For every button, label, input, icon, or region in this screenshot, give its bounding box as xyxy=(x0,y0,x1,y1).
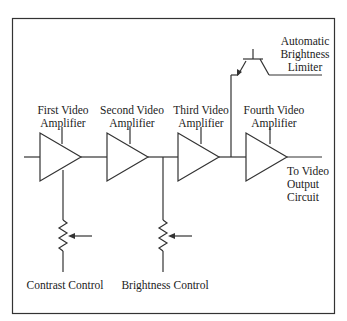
fourth-video-amplifier-symbol xyxy=(246,127,287,181)
amp4-line1: Fourth Video xyxy=(236,104,312,117)
third-video-amplifier-symbol xyxy=(178,127,219,181)
limiter-line3: Limiter xyxy=(275,61,335,74)
amp2-line1: Second Video xyxy=(94,104,170,117)
contrast-control-label: Contrast Control xyxy=(25,279,105,292)
amp3-line1: Third Video xyxy=(166,104,236,117)
contrast-control-text: Contrast Control xyxy=(25,279,105,292)
amp2-line2: Amplifier xyxy=(94,117,170,130)
contrast-wiper-arrow-icon xyxy=(68,233,75,239)
limiter-line2: Brightness xyxy=(275,48,335,61)
limiter-line1: Automatic xyxy=(275,35,335,48)
first-video-amplifier-symbol xyxy=(40,127,81,181)
brightness-control-text: Brightness Control xyxy=(120,279,210,292)
second-video-amplifier-label: Second Video Amplifier xyxy=(94,104,170,130)
amp4-line2: Amplifier xyxy=(236,117,312,130)
to-video-output-circuit-label: To Video Output Circuit xyxy=(287,165,329,204)
output-line1: To Video xyxy=(287,165,329,178)
fourth-video-amplifier-label: Fourth Video Amplifier xyxy=(236,104,312,130)
first-video-amplifier-label: First Video Amplifier xyxy=(28,104,98,130)
output-line3: Circuit xyxy=(287,191,329,204)
brightness-control-label: Brightness Control xyxy=(120,279,210,292)
amp3-line2: Amplifier xyxy=(166,117,236,130)
contrast-control-potentiometer xyxy=(59,170,92,272)
automatic-brightness-limiter-label: Automatic Brightness Limiter xyxy=(275,35,335,74)
amp1-line2: Amplifier xyxy=(28,117,98,130)
brightness-wiper-arrow-icon xyxy=(168,233,175,239)
second-video-amplifier-symbol xyxy=(107,127,148,181)
amp1-line1: First Video xyxy=(28,104,98,117)
output-line2: Output xyxy=(287,178,329,191)
third-video-amplifier-label: Third Video Amplifier xyxy=(166,104,236,130)
